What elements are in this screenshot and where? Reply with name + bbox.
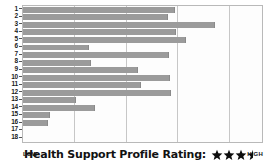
plot-frame xyxy=(22,5,263,143)
bar-1 xyxy=(23,7,175,13)
bar-5 xyxy=(23,37,186,43)
rating-label: Health Support Profile Rating: xyxy=(24,148,206,161)
star-rating xyxy=(211,149,259,161)
bar-row xyxy=(23,36,262,44)
y-tick-label: 13 xyxy=(11,96,18,103)
y-tick-label: 5 xyxy=(15,36,18,43)
star-full-3 xyxy=(235,149,247,161)
y-tick-label: 6 xyxy=(15,43,18,50)
y-tick-label: 1 xyxy=(15,6,18,13)
bar-12 xyxy=(23,90,171,96)
bar-row xyxy=(23,29,262,37)
y-tick-9: 9 xyxy=(15,65,22,73)
bar-row xyxy=(23,104,262,112)
y-tick-18: 18 xyxy=(11,133,22,141)
y-tick-label: 15 xyxy=(11,111,18,118)
y-tick-label: 11 xyxy=(12,81,18,88)
bar-4 xyxy=(23,29,176,35)
y-tick-label: 2 xyxy=(15,13,18,20)
bar-9 xyxy=(23,67,138,73)
bar-6 xyxy=(23,45,89,51)
bar-row xyxy=(23,6,262,14)
bar-row xyxy=(23,89,262,97)
bar-8 xyxy=(23,60,91,66)
bar-2 xyxy=(23,14,168,20)
star-half xyxy=(247,149,259,161)
bar-16 xyxy=(23,120,48,126)
y-tick-label: 3 xyxy=(15,21,18,28)
y-tick-label: 17 xyxy=(11,126,18,133)
y-tick-label: 8 xyxy=(15,58,18,65)
bar-3 xyxy=(23,22,215,28)
bar-row xyxy=(23,119,262,127)
chart-footer: LOW HIGH Health Support Profile Rating: xyxy=(0,146,267,168)
bar-row xyxy=(23,14,262,22)
bar-row xyxy=(23,59,262,67)
y-tick-label: 4 xyxy=(15,28,18,35)
y-tick-label: 14 xyxy=(11,104,18,111)
y-tick-label: 10 xyxy=(11,74,18,81)
bar-15 xyxy=(23,112,50,118)
bar-row xyxy=(23,21,262,29)
y-tick-11: 11 xyxy=(12,81,22,89)
y-axis-labels: 123456789101112131415161718 xyxy=(0,5,22,143)
bar-11 xyxy=(23,82,141,88)
bar-row xyxy=(23,97,262,105)
health-support-profile-chart: 123456789101112131415161718 LOW HIGH Hea… xyxy=(0,0,267,168)
y-tick-label: 18 xyxy=(11,134,18,141)
y-tick-2: 2 xyxy=(15,13,22,21)
star-full-2 xyxy=(223,149,235,161)
bar-10 xyxy=(23,75,170,81)
bar-row xyxy=(23,127,262,135)
bar-7 xyxy=(23,52,169,58)
y-tick-label: 16 xyxy=(11,119,18,126)
bar-rows xyxy=(23,6,262,142)
rating-line: Health Support Profile Rating: xyxy=(46,148,237,161)
y-tick-label: 12 xyxy=(11,89,18,96)
bar-14 xyxy=(23,105,95,111)
plot-area: 123456789101112131415161718 xyxy=(0,0,267,148)
star-full-1 xyxy=(211,149,223,161)
bar-row xyxy=(23,81,262,89)
bar-row xyxy=(23,44,262,52)
y-tick-label: 7 xyxy=(15,51,18,58)
bar-row xyxy=(23,51,262,59)
bar-row xyxy=(23,66,262,74)
bar-13 xyxy=(23,97,76,103)
bar-row xyxy=(23,134,262,142)
bar-row xyxy=(23,74,262,82)
y-tick-label: 9 xyxy=(15,66,18,73)
bar-row xyxy=(23,112,262,120)
